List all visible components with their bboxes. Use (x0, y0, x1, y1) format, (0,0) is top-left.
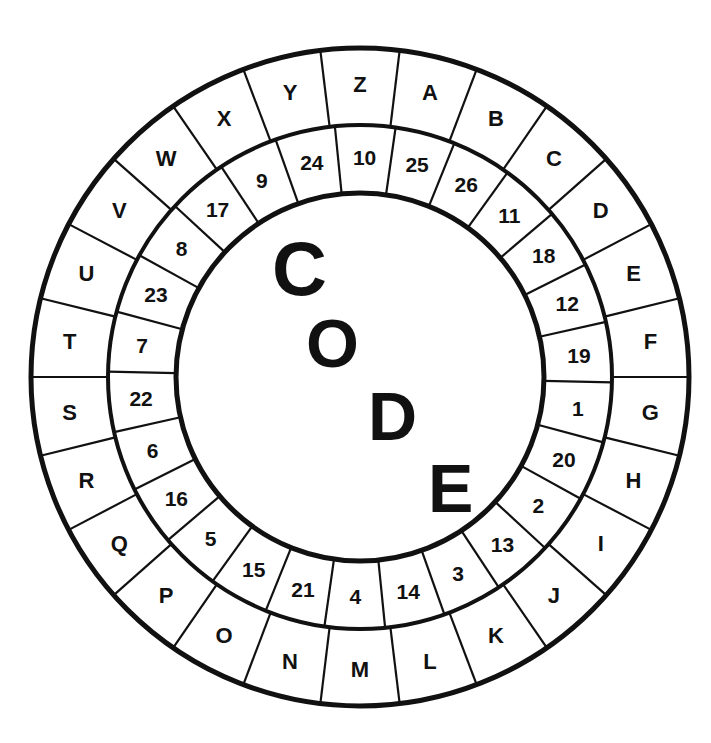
cipher-number-4: 4 (350, 585, 362, 608)
cipher-number-5: 5 (205, 527, 217, 550)
number-sector-divider (324, 559, 334, 626)
cipher-number-25: 25 (405, 153, 429, 176)
cipher-letter-k: K (488, 623, 504, 648)
cipher-number-15: 15 (242, 558, 266, 581)
letter-sector-divider (41, 437, 116, 455)
letter-sector-divider (390, 50, 399, 126)
number-sector-divider (429, 143, 454, 206)
cipher-number-22: 22 (129, 387, 152, 410)
cipher-letter-s: S (62, 400, 77, 425)
cipher-wheel: ZABCDEFGHIJKLMNOPQRSTUVWXY 1025261118121… (0, 0, 711, 743)
letter-sector-divider (69, 224, 137, 260)
number-sector-divider (335, 126, 342, 194)
cipher-number-26: 26 (455, 173, 478, 196)
center-title: C O D E (272, 226, 473, 526)
letter-sector-divider (243, 69, 270, 141)
letter-sector-divider (320, 627, 329, 703)
letter-sector-divider (41, 298, 116, 316)
number-sector-divider (114, 417, 180, 432)
number-sector-divider (378, 560, 385, 628)
letter-sector-divider (583, 224, 651, 260)
cipher-letter-v: V (112, 198, 127, 223)
cipher-number-9: 9 (256, 169, 268, 192)
cipher-number-2: 2 (533, 494, 545, 517)
cipher-number-16: 16 (165, 487, 188, 510)
cipher-letter-w: W (156, 146, 177, 171)
letter-sector-divider (320, 50, 329, 126)
number-sector-divider (540, 322, 606, 337)
letter-sector-divider (69, 494, 137, 530)
cipher-number-21: 21 (291, 578, 315, 601)
cipher-number-11: 11 (498, 204, 521, 227)
title-letter-d: D (368, 378, 417, 454)
cipher-letter-a: A (422, 80, 438, 105)
cipher-letter-j: J (548, 583, 560, 608)
letter-sector-divider (605, 298, 680, 316)
cipher-letter-p: P (159, 583, 174, 608)
number-sector-divider (521, 466, 581, 499)
cipher-letter-i: I (598, 531, 604, 556)
cipher-letter-h: H (626, 468, 642, 493)
number-sector-divider (544, 381, 612, 382)
letter-sector-divider (173, 106, 217, 169)
cipher-number-23: 23 (144, 283, 167, 306)
cipher-letter-g: G (642, 400, 659, 425)
letter-sector-divider (503, 106, 547, 169)
cipher-letter-e: E (626, 261, 641, 286)
letter-sector-divider (449, 69, 476, 141)
title-letter-e: E (428, 450, 473, 526)
cipher-letter-c: C (546, 146, 562, 171)
number-sector-divider (266, 548, 291, 611)
cipher-number-19: 19 (567, 344, 590, 367)
cipher-wheel-diagram: ZABCDEFGHIJKLMNOPQRSTUVWXY 1025261118121… (0, 0, 711, 743)
number-sector-divider (422, 550, 445, 614)
cipher-letter-b: B (488, 106, 504, 131)
number-sector-divider (117, 312, 183, 330)
number-sector-divider (538, 425, 604, 443)
cipher-letter-o: O (216, 623, 233, 648)
cipher-number-17: 17 (206, 198, 229, 221)
cipher-number-18: 18 (532, 244, 556, 267)
number-sector-divider (386, 128, 396, 195)
cipher-letter-r: R (79, 468, 95, 493)
cipher-number-20: 20 (552, 448, 575, 471)
inner-ring-border (176, 193, 544, 561)
cipher-letter-y: Y (283, 80, 298, 105)
cipher-letter-q: Q (111, 531, 128, 556)
letter-sector-divider (605, 437, 680, 455)
letter-sector-divider (583, 494, 651, 530)
cipher-letter-d: D (593, 198, 609, 223)
cipher-letter-z: Z (353, 72, 366, 97)
cipher-number-13: 13 (491, 533, 514, 556)
cipher-number-10: 10 (353, 146, 376, 169)
cipher-letter-t: T (63, 329, 77, 354)
cipher-letter-m: M (351, 657, 369, 682)
letter-sector-divider (449, 613, 476, 685)
inner-number-ring: 1025261118121912021331442115516622723817… (129, 146, 590, 609)
number-sector-divider (134, 459, 195, 489)
cipher-number-14: 14 (396, 580, 420, 603)
cipher-number-3: 3 (452, 562, 464, 585)
cipher-number-8: 8 (176, 237, 188, 260)
cipher-letter-f: F (644, 329, 657, 354)
cipher-number-12: 12 (556, 292, 579, 315)
cipher-number-24: 24 (300, 151, 324, 174)
cipher-letter-n: N (282, 649, 298, 674)
middle-ring-border (108, 125, 612, 629)
number-sector-divider (108, 372, 176, 373)
cipher-number-6: 6 (147, 439, 159, 462)
number-sector-divider (276, 140, 299, 204)
letter-sector-divider (243, 613, 270, 685)
cipher-letter-u: U (79, 261, 95, 286)
cipher-letter-l: L (423, 649, 436, 674)
title-letter-c: C (272, 226, 327, 311)
letter-sector-divider (390, 627, 399, 703)
title-letter-o: O (306, 305, 359, 381)
cipher-number-7: 7 (136, 334, 148, 357)
letter-sector-divider (173, 584, 217, 647)
number-sector-divider (525, 265, 586, 295)
letter-sector-divider (503, 584, 547, 647)
cipher-letter-x: X (217, 106, 232, 131)
cipher-number-1: 1 (572, 397, 584, 420)
